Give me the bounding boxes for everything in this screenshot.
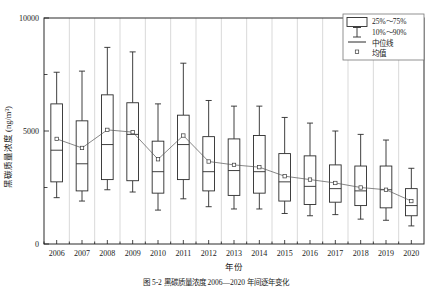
x-tick-label: 2019 [378, 249, 394, 258]
box-plot-2015 [279, 117, 291, 213]
box-plot-2010 [152, 104, 164, 210]
x-tick-label: 2008 [99, 249, 115, 258]
mean-marker [55, 137, 58, 140]
box-plot-2009 [127, 52, 139, 192]
box-plot-2017 [330, 131, 342, 215]
mean-marker [384, 188, 387, 191]
mean-marker [334, 181, 337, 184]
y-axis-title: 黑碳质量浓度 (ng/m³) [3, 106, 13, 188]
box-iqr [102, 95, 114, 180]
legend-label-mean: 均值 [372, 48, 387, 58]
mean-marker [131, 130, 134, 133]
box-iqr [51, 104, 63, 182]
mean-marker [308, 178, 311, 181]
box-plot-2019 [380, 140, 392, 220]
box-plot-2011 [178, 63, 190, 199]
box-iqr [178, 115, 190, 179]
y-tick-label: 5000 [23, 127, 39, 136]
box-iqr [203, 137, 215, 191]
x-tick-label: 2017 [327, 249, 343, 258]
x-tick-label: 2010 [150, 249, 166, 258]
x-axis-title: 年份 [225, 262, 243, 272]
x-tick-label: 2012 [201, 249, 217, 258]
x-tick-label: 2011 [175, 249, 191, 258]
mean-marker [106, 128, 109, 131]
mean-marker [80, 146, 83, 149]
box-plot-2020 [406, 168, 418, 226]
mean-marker [258, 165, 261, 168]
legend: 25%～75%10%～90%中位线均值 [343, 14, 424, 60]
x-tick-label: 2020 [403, 249, 419, 258]
x-tick-label: 2016 [302, 249, 318, 258]
box-iqr [254, 136, 266, 194]
box-plot-2013 [228, 106, 240, 209]
y-tick-label: 0 [35, 240, 39, 249]
box-plot-2006 [51, 72, 63, 197]
box-series [51, 47, 417, 226]
x-tick-label: 2007 [74, 249, 90, 258]
mean-marker [207, 160, 210, 163]
x-tick-label: 2015 [277, 249, 293, 258]
box-iqr [76, 121, 88, 191]
box-iqr [152, 141, 164, 193]
mean-marker [283, 175, 286, 178]
box-iqr [228, 139, 240, 196]
x-tick-label: 2006 [49, 249, 65, 258]
legend-label-whisker: 10%～90% [372, 28, 407, 37]
mean-marker [359, 186, 362, 189]
x-axis-ticks: 2006200720082009201020112012201320142015… [44, 240, 419, 258]
box-iqr [127, 103, 139, 181]
legend-label-median: 中位线 [372, 38, 394, 48]
figure-caption: 图 5-2 黑碳质量浓度 2006—2020 年间逐年变化 [143, 277, 290, 287]
x-tick-label: 2013 [226, 249, 242, 258]
legend-swatch-box [347, 18, 367, 27]
x-tick-label: 2014 [251, 249, 267, 258]
mean-marker [182, 134, 185, 137]
box-plot-2018 [355, 134, 367, 219]
x-tick-label: 2009 [125, 249, 141, 258]
box-plot-2014 [254, 106, 266, 209]
legend-swatch-mean [355, 50, 358, 53]
figure-container: 0500010000 20062007200820092010201120122… [0, 0, 432, 288]
mean-marker [232, 163, 235, 166]
boxplot-chart: 0500010000 20062007200820092010201120122… [0, 0, 432, 288]
box-plot-2008 [102, 47, 114, 189]
box-plot-2016 [304, 123, 316, 216]
x-tick-label: 2018 [353, 249, 369, 258]
box-plot-2012 [203, 100, 215, 206]
mean-marker [410, 199, 413, 202]
y-tick-label: 10000 [19, 14, 39, 23]
mean-marker [156, 158, 159, 161]
box-plot-2007 [76, 71, 88, 201]
legend-label-box: 25%～75% [372, 17, 407, 26]
box-iqr [380, 166, 392, 208]
